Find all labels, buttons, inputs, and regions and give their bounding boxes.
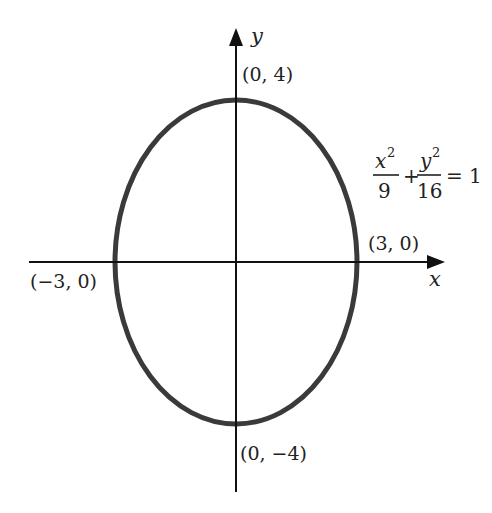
eq-x-numerator: x: [375, 149, 386, 173]
x-axis-label: x: [429, 267, 441, 291]
point-label-top: (0, 4): [242, 63, 293, 85]
eq-y-numerator: y: [419, 149, 432, 173]
y-axis-label: y: [250, 24, 264, 48]
eq-rhs: = 1: [446, 164, 482, 188]
point-label-right: (3, 0): [368, 232, 419, 254]
eq-x-denominator: 9: [378, 179, 391, 203]
eq-y-exponent: 2: [432, 145, 440, 160]
point-label-left: (−3, 0): [30, 270, 97, 292]
y-axis-arrow-icon: [229, 28, 243, 46]
ellipse-equation: x 2 9 + y 2 16 = 1: [373, 145, 482, 203]
eq-y-denominator: 16: [417, 179, 442, 203]
point-label-bottom: (0, −4): [240, 442, 307, 464]
ellipse-diagram: y x (0, 4) (0, −4) (3, 0) (−3, 0) x 2 9 …: [0, 0, 492, 513]
eq-x-exponent: 2: [387, 145, 395, 160]
